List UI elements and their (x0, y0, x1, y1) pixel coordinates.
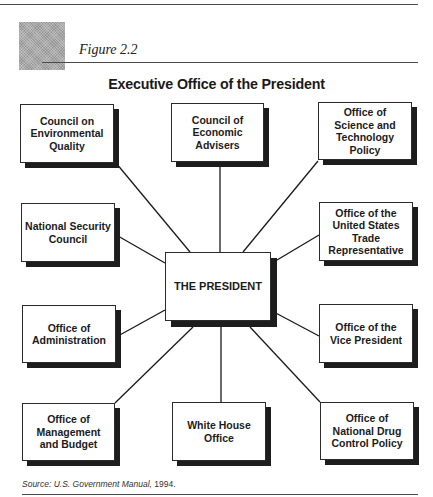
node-council-of-economic-advisers: Council of Economic Advisers (171, 103, 264, 162)
node-office-of-science-and-technology-policy: Office of Science and Technology Policy (318, 102, 412, 160)
node-label: Office of National Drug Control Policy (331, 412, 402, 450)
bottom-rule (22, 494, 418, 495)
edge-ceq (116, 163, 190, 252)
edge-oa (118, 310, 165, 336)
node-office-of-management-and-budget: Office of Management and Budget (22, 403, 115, 461)
source-prefix: Source: (22, 479, 54, 489)
node-national-security-council: National Security Council (21, 203, 115, 262)
edge-nsc (118, 236, 165, 263)
node-the-president: THE PRESIDENT (165, 252, 271, 321)
node-label: Office of Science and Technology Policy (334, 106, 395, 156)
source-note: Source: U.S. Government Manual, 1994. (22, 479, 176, 489)
node-label: Office of the Vice President (330, 321, 402, 346)
node-office-of-us-trade-representative: Office of the United States Trade Repres… (319, 202, 413, 261)
edge-ondcp (250, 327, 320, 402)
node-label: National Security Council (25, 220, 111, 245)
node-label: Office of Administration (32, 322, 106, 347)
edge-omb (115, 327, 193, 403)
source-title: U.S. Government Manual, (54, 479, 152, 489)
node-label: White House Office (187, 419, 251, 444)
node-label: Office of the United States Trade Repres… (328, 207, 403, 257)
edge-ustr (272, 235, 319, 263)
node-office-of-administration: Office of Administration (22, 305, 116, 363)
node-label: Council of Economic Advisers (192, 114, 243, 152)
node-label: Council on Environmental Quality (31, 115, 104, 153)
node-council-on-environmental-quality: Council on Environmental Quality (20, 104, 114, 163)
node-label: Office of Management and Budget (36, 413, 100, 451)
edge-ovp (272, 311, 319, 336)
node-white-house-office: White House Office (172, 402, 266, 461)
node-office-of-the-vice-president: Office of the Vice President (319, 304, 413, 363)
node-label: THE PRESIDENT (174, 280, 262, 293)
node-office-of-national-drug-control-policy: Office of National Drug Control Policy (320, 402, 414, 460)
source-year: 1994. (152, 479, 176, 489)
edge-ostp (243, 161, 318, 252)
